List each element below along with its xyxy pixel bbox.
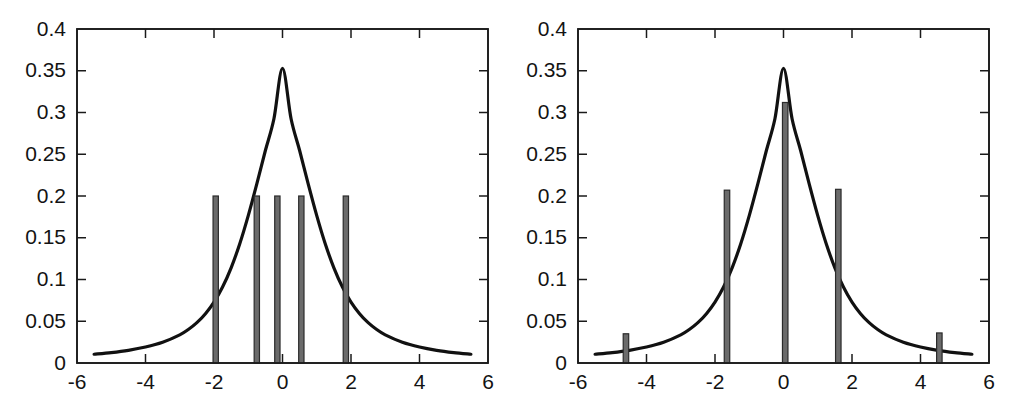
bar (213, 196, 218, 363)
x-axis-tick-label: -6 (569, 370, 588, 393)
x-axis-tick-label: 6 (482, 370, 494, 393)
x-axis-tick-label: 2 (345, 370, 357, 393)
bar (343, 196, 348, 363)
y-axis-tick-label: 0.1 (37, 267, 66, 290)
y-axis-tick-label: 0.25 (25, 142, 66, 165)
plot-frame (77, 29, 488, 363)
x-axis-tick-label: 4 (915, 370, 927, 393)
x-axis-tick-label: -4 (637, 370, 656, 393)
y-axis-tick-label: 0.2 (538, 184, 567, 207)
chart-svg-right: 00.050.10.150.20.250.30.350.4-6-4-20246 (506, 0, 1011, 411)
bar (836, 189, 841, 363)
x-axis-tick-label: 4 (414, 370, 426, 393)
bar (275, 196, 280, 363)
bar (937, 333, 942, 363)
x-axis-tick-label: 0 (277, 370, 289, 393)
figure-container: 00.050.10.150.20.250.30.350.4-6-4-20246 … (0, 0, 1011, 411)
y-axis-tick-label: 0.15 (526, 225, 567, 248)
y-axis-tick-label: 0.3 (538, 100, 567, 123)
chart-svg-left: 00.050.10.150.20.250.30.350.4-6-4-20246 (0, 0, 505, 411)
x-axis-tick-label: -6 (68, 370, 87, 393)
y-axis-tick-label: 0.35 (526, 58, 567, 81)
x-axis-tick-label: 2 (846, 370, 858, 393)
chart-panel-left: 00.050.10.150.20.250.30.350.4-6-4-20246 (0, 0, 505, 411)
y-axis-tick-label: 0.05 (526, 309, 567, 332)
x-axis-tick-label: 0 (778, 370, 790, 393)
plot-frame-overlay (77, 29, 488, 363)
chart-panel-right: 00.050.10.150.20.250.30.350.4-6-4-20246 (506, 0, 1011, 411)
density-curve (94, 68, 471, 354)
y-axis-tick-label: 0.3 (37, 100, 66, 123)
y-axis-tick-label: 0.4 (538, 17, 568, 40)
x-axis-tick-label: -4 (136, 370, 155, 393)
y-axis-tick-label: 0.1 (538, 267, 567, 290)
x-axis-tick-label: -2 (706, 370, 725, 393)
x-axis-tick-label: -2 (205, 370, 224, 393)
bar (782, 102, 787, 363)
y-axis-tick-label: 0.35 (25, 58, 66, 81)
x-axis-tick-label: 6 (983, 370, 995, 393)
y-axis-tick-label: 0.25 (526, 142, 567, 165)
bar (623, 334, 628, 363)
y-axis-tick-label: 0.4 (37, 17, 67, 40)
y-axis-tick-label: 0.15 (25, 225, 66, 248)
bar (254, 196, 259, 363)
y-axis-tick-label: 0.05 (25, 309, 66, 332)
y-axis-tick-label: 0 (54, 351, 66, 374)
y-axis-tick-label: 0 (555, 351, 567, 374)
y-axis-tick-label: 0.2 (37, 184, 66, 207)
bar (724, 190, 729, 363)
bar (299, 196, 304, 363)
